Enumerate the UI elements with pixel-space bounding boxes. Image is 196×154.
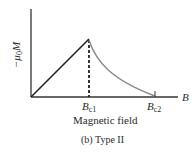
bc2-label: Bc2	[147, 100, 161, 114]
bc2-main: B	[147, 100, 154, 112]
figure-caption: (b) Type II	[81, 134, 124, 145]
bc1-sub: c1	[89, 105, 97, 114]
decay-curve	[89, 40, 155, 96]
bc1-label: Bc1	[82, 100, 96, 114]
ylabel-sub: 0	[15, 51, 24, 55]
x-axis-title: Magnetic field	[73, 114, 137, 126]
ylabel-mu: −μ	[10, 55, 22, 68]
bc1-main: B	[82, 100, 89, 112]
b-axis-label: B	[182, 91, 189, 103]
ylabel-m: M	[10, 42, 22, 51]
magnetization-plot	[0, 0, 196, 154]
linear-rise-line	[31, 39, 89, 97]
bc2-sub: c2	[154, 105, 162, 114]
y-axis-label: −μ0M	[10, 42, 24, 68]
